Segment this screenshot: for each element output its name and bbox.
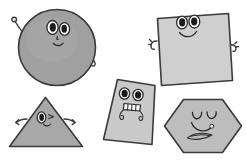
drawing-canvas xyxy=(0,0,246,160)
quad-right-pupil xyxy=(135,91,141,98)
shape-hexagon xyxy=(165,100,242,153)
square-left-arm xyxy=(151,41,157,49)
quad-left-pupil xyxy=(122,90,128,97)
triangle-open-pupil xyxy=(39,114,44,121)
shape-circle xyxy=(12,10,96,86)
hexagon-nose-dot xyxy=(210,124,214,128)
shape-square xyxy=(149,14,239,86)
shape-quadrilateral xyxy=(104,80,156,145)
circle-left-hand xyxy=(12,17,17,22)
square-left-pupil xyxy=(179,18,185,26)
triangle-body xyxy=(10,98,83,147)
circle-left-pupil xyxy=(50,23,56,32)
shape-triangle xyxy=(10,98,83,147)
circle-right-pupil xyxy=(61,25,67,33)
quadrilateral-body xyxy=(104,80,156,145)
square-right-pupil xyxy=(191,17,197,25)
hexagon-body xyxy=(165,100,242,153)
shapes-illustration xyxy=(0,0,246,160)
